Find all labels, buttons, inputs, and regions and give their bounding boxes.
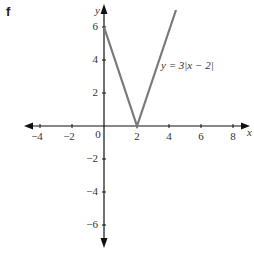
x-axis-label: x — [246, 126, 252, 138]
equation-label: y = 3|x − 2| — [160, 59, 214, 71]
graph: −4 −2 0 2 4 6 8 x 6 4 2 −2 −4 −6 y y = 3… — [0, 0, 254, 254]
y-tick-label: −6 — [86, 218, 98, 230]
y-tick-label: 2 — [93, 86, 99, 98]
origin-label: 0 — [95, 128, 101, 140]
y-axis-up-arrow-icon — [101, 4, 108, 14]
y-tick-label: −4 — [86, 185, 98, 197]
x-axis-left-arrow-icon — [24, 123, 33, 130]
y-axis-down-arrow-icon — [101, 238, 108, 248]
y-tick-label: 4 — [93, 53, 99, 65]
y-axis-label: y — [94, 4, 100, 16]
x-tick-label: 2 — [134, 130, 140, 142]
x-tick-label: −4 — [31, 130, 43, 142]
x-tick-label: −2 — [63, 130, 75, 142]
y-tick-label: −2 — [86, 152, 98, 164]
x-tick-label: 6 — [198, 130, 204, 142]
x-tick-label: 8 — [230, 130, 236, 142]
x-tick-label: 4 — [166, 130, 172, 142]
y-tick-label: 6 — [93, 20, 99, 32]
